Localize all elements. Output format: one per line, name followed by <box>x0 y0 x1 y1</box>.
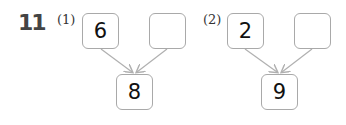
problem-1-right-box[interactable] <box>149 13 186 49</box>
problem-1-left-box: 6 <box>82 13 119 49</box>
problem-1-label: (1) <box>57 12 75 27</box>
problem-2-label: (2) <box>203 12 221 27</box>
problem-2-left-box: 2 <box>227 13 264 49</box>
problem-2-right-box[interactable] <box>294 13 331 49</box>
problem-2-total-box: 9 <box>261 74 298 110</box>
problem-1-total-box: 8 <box>116 74 153 110</box>
